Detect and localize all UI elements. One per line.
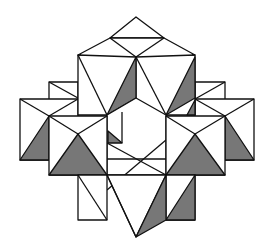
polyhedra-diagram: [0, 0, 270, 248]
polyhedra-drawing: [0, 0, 270, 248]
